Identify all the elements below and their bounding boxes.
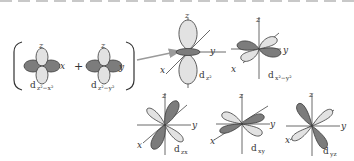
orbital-label-main: d xyxy=(268,70,274,80)
orbital-dz2-y2 xyxy=(86,48,122,84)
axis-label-z: z xyxy=(308,90,314,99)
orbital-label-main: d xyxy=(323,146,329,156)
axis-label-y: y xyxy=(118,62,125,72)
orbital-dz2-x2 xyxy=(24,48,60,84)
axis-label-y: y xyxy=(282,45,289,55)
axis-label-x: x xyxy=(160,65,165,75)
plus-sign: + xyxy=(74,60,83,73)
right-bracket xyxy=(126,42,134,90)
orbital-label-sub: z²−y² xyxy=(98,84,115,92)
orbital-label-main: d xyxy=(251,143,257,153)
axis-label-z: z xyxy=(255,15,261,24)
combination-arrow xyxy=(137,51,180,60)
axis-label-x: x xyxy=(60,61,65,71)
orbital-label-sub: zx xyxy=(181,148,188,155)
orbital-label-sub: xy xyxy=(258,147,265,155)
axis-label-x: x xyxy=(137,140,142,150)
axis-label-z: z xyxy=(238,91,244,100)
orbital-dxy xyxy=(214,94,270,154)
left-bracket xyxy=(14,42,22,90)
orbital-label-sub: z²−x² xyxy=(37,84,54,91)
orbital-label-main: d xyxy=(91,80,97,90)
axis-label-y: y xyxy=(340,121,347,131)
orbital-dz2 xyxy=(166,18,226,88)
axis-label-x: x xyxy=(231,64,236,74)
orbital-label-sub: x²−y² xyxy=(275,74,292,82)
axis-label-z: z xyxy=(184,11,190,20)
axis-label-y: y xyxy=(209,46,216,56)
axis-label-z: z xyxy=(161,91,167,100)
axis-label-y: y xyxy=(191,120,198,130)
axis-label-z: z xyxy=(100,41,106,50)
orbital-label-sub: z² xyxy=(206,74,212,81)
axis-label-z: z xyxy=(38,41,44,50)
orbital-label-main: d xyxy=(174,144,180,154)
axis-label-x: x xyxy=(285,135,290,145)
d-orbital-diagram: z x d z²−x² + z y d z²−y² z x y d z² z x… xyxy=(0,0,354,161)
axis-label-y: y xyxy=(269,119,276,129)
orbital-label-main: d xyxy=(199,70,205,80)
orbital-dzx xyxy=(137,93,191,155)
axis-label-x: x xyxy=(210,136,215,146)
orbital-label-main: d xyxy=(30,80,36,90)
orbital-dyz xyxy=(286,94,340,156)
orbital-label-sub: yz xyxy=(329,150,337,158)
